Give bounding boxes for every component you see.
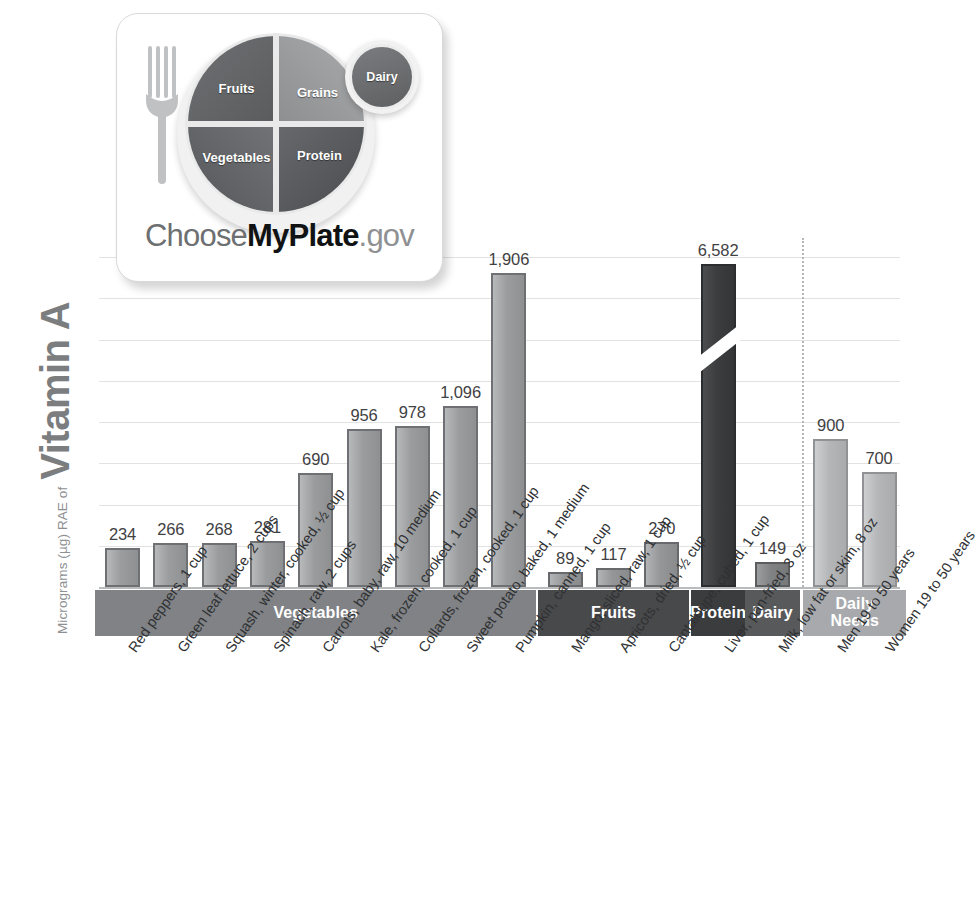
bar-value-label: 900: [797, 416, 864, 435]
plate-section-protein: Protein: [276, 124, 367, 215]
bar-veg: [443, 406, 478, 587]
fork-icon: [145, 46, 179, 184]
x-axis-labels: Red peppers, 1 cupGreen leaf lettuce, 2 …: [0, 636, 909, 921]
bar-value-label: 6,582: [685, 241, 752, 260]
bar-value-label: 700: [846, 449, 913, 468]
y-axis-title-units: Micrograms (µg) RAE of: [55, 487, 74, 634]
y-axis-title-nutrient: Vitamin A: [36, 302, 74, 480]
plate-label-protein: Protein: [297, 148, 342, 163]
bar-value-label: 978: [379, 403, 446, 422]
myplate-wordmark: ChooseMyPlate.gov: [117, 218, 442, 254]
plate-label-fruits: Fruits: [218, 81, 254, 96]
bar-veg: [105, 548, 140, 587]
plate-section-vegetables: Vegetables: [185, 124, 276, 215]
daily-needs-divider: [802, 238, 804, 587]
plate-section-fruits: Fruits: [185, 33, 276, 124]
bar-value-label: 1,906: [475, 250, 542, 269]
myplate-logo: Fruits Grains Vegetables Protein Dairy C…: [116, 13, 443, 282]
plate-label-dairy: Dairy: [349, 44, 415, 110]
plate-label-vegetables: Vegetables: [203, 150, 271, 165]
y-axis-title: Micrograms (µg) RAE of Vitamin A: [14, 74, 74, 634]
wordmark-myplate: MyPlate: [247, 218, 359, 253]
bar-value-label: 690: [282, 450, 349, 469]
wordmark-choose: Choose: [145, 218, 247, 253]
plate-label-grains: Grains: [297, 85, 338, 100]
plate-dairy-cup: Dairy: [345, 40, 419, 114]
plate-sections: Fruits Grains Vegetables Protein: [185, 33, 367, 215]
wordmark-gov: .gov: [359, 218, 414, 253]
bar-value-label: 1,096: [427, 383, 494, 402]
